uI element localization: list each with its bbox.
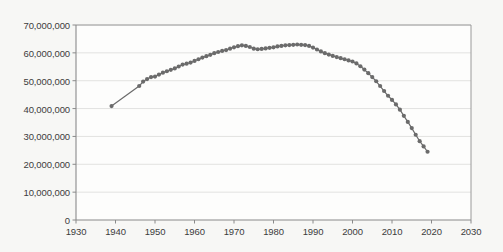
data-point xyxy=(311,45,315,49)
data-point xyxy=(165,69,169,73)
data-point xyxy=(422,144,426,148)
data-point xyxy=(370,75,374,79)
x-axis-tick-label: 1970 xyxy=(224,226,245,237)
data-point xyxy=(185,62,189,66)
y-axis-tick-label: 20,000,000 xyxy=(23,159,70,170)
data-point xyxy=(346,58,350,62)
data-point xyxy=(394,102,398,106)
data-point xyxy=(307,44,311,48)
data-point xyxy=(256,47,260,51)
x-axis-tick-label: 1940 xyxy=(105,226,126,237)
data-point xyxy=(228,47,232,51)
data-point xyxy=(295,42,299,46)
data-point xyxy=(418,139,422,143)
data-point xyxy=(283,43,287,47)
data-point xyxy=(141,79,145,83)
data-point xyxy=(196,57,200,61)
x-axis-tick-label: 1960 xyxy=(184,226,205,237)
x-axis-tick-label: 1950 xyxy=(145,226,166,237)
data-point xyxy=(153,74,157,78)
data-point xyxy=(145,77,149,81)
data-point xyxy=(177,64,181,68)
data-point xyxy=(374,79,378,83)
data-point xyxy=(204,54,208,58)
data-point xyxy=(216,50,220,54)
data-point xyxy=(390,98,394,102)
data-point xyxy=(386,94,390,98)
data-point xyxy=(410,126,414,130)
x-axis-tick-label: 2030 xyxy=(461,226,482,237)
data-point xyxy=(425,150,429,154)
data-point xyxy=(354,61,358,65)
data-point xyxy=(366,71,370,75)
data-point xyxy=(149,75,153,79)
data-point xyxy=(287,43,291,47)
x-axis-tick-label: 2020 xyxy=(421,226,442,237)
data-point xyxy=(291,43,295,47)
y-axis-tick-label: 30,000,000 xyxy=(23,131,70,142)
data-point xyxy=(362,67,366,71)
data-point xyxy=(240,43,244,47)
data-point xyxy=(181,62,185,66)
data-point xyxy=(279,44,283,48)
data-point xyxy=(402,114,406,118)
data-point xyxy=(173,66,177,70)
data-point xyxy=(236,44,240,48)
data-point xyxy=(343,57,347,61)
data-point xyxy=(252,47,256,51)
data-point xyxy=(157,72,161,76)
data-point xyxy=(323,51,327,55)
data-point xyxy=(220,49,224,53)
line-chart: 010,000,00020,000,00030,000,00040,000,00… xyxy=(0,0,503,252)
data-point xyxy=(406,120,410,124)
data-point xyxy=(224,48,228,52)
y-axis-tick-label: 40,000,000 xyxy=(23,103,70,114)
data-point xyxy=(335,55,339,59)
data-point xyxy=(271,45,275,49)
x-axis-tick-label: 2010 xyxy=(382,226,403,237)
data-point xyxy=(192,59,196,63)
plot-background xyxy=(76,25,471,220)
data-point xyxy=(275,44,279,48)
data-point xyxy=(208,53,212,57)
data-point xyxy=(350,59,354,63)
data-point xyxy=(212,51,216,55)
data-point xyxy=(378,84,382,88)
data-point xyxy=(137,84,141,88)
data-point xyxy=(248,45,252,49)
data-point xyxy=(327,52,331,56)
data-point xyxy=(260,47,264,51)
data-point xyxy=(244,44,248,48)
data-point xyxy=(331,54,335,58)
y-axis-tick-label: 10,000,000 xyxy=(23,187,70,198)
chart-plot-area xyxy=(0,0,503,252)
x-axis-tick-label: 2000 xyxy=(342,226,363,237)
data-point xyxy=(358,64,362,68)
data-point xyxy=(267,46,271,50)
y-axis-tick-label: 70,000,000 xyxy=(23,20,70,31)
data-point xyxy=(339,56,343,60)
y-axis-tick-label: 50,000,000 xyxy=(23,75,70,86)
y-axis-tick-label: 60,000,000 xyxy=(23,47,70,58)
data-point xyxy=(299,43,303,47)
x-axis-tick-label: 1990 xyxy=(303,226,324,237)
data-point xyxy=(303,43,307,47)
data-point xyxy=(200,55,204,59)
data-point xyxy=(169,68,173,72)
data-point xyxy=(315,47,319,51)
data-point xyxy=(382,89,386,93)
data-point xyxy=(398,108,402,112)
data-point xyxy=(414,133,418,137)
data-point xyxy=(319,49,323,53)
x-axis-tick-label: 1980 xyxy=(263,226,284,237)
data-point xyxy=(264,46,268,50)
data-point xyxy=(232,45,236,49)
data-point xyxy=(109,104,113,108)
y-axis-tick-label: 0 xyxy=(65,215,70,226)
data-point xyxy=(161,71,165,75)
data-point xyxy=(188,61,192,65)
x-axis-tick-label: 1930 xyxy=(66,226,87,237)
